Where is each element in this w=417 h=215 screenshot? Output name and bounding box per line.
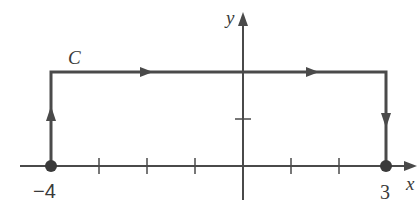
start-point [45,160,57,172]
curve-c [45,67,392,172]
x-axis [20,158,417,174]
x-tick-label-neg4: −4 [33,180,56,202]
arrow-right-icon [140,67,153,77]
arrow-up-icon [46,106,56,121]
arrow-right-icon [306,67,319,77]
curve-label: C [68,47,81,68]
x-axis-label: x [405,173,415,194]
x-tick-label-3: 3 [380,181,390,203]
arrow-down-icon [381,113,391,128]
x-axis-arrow-icon [404,161,417,171]
y-axis [235,12,251,200]
line-integral-diagram: C y x −4 3 [0,0,417,215]
y-axis-arrow-icon [238,12,248,26]
y-axis-label: y [224,7,235,28]
end-point [380,160,392,172]
